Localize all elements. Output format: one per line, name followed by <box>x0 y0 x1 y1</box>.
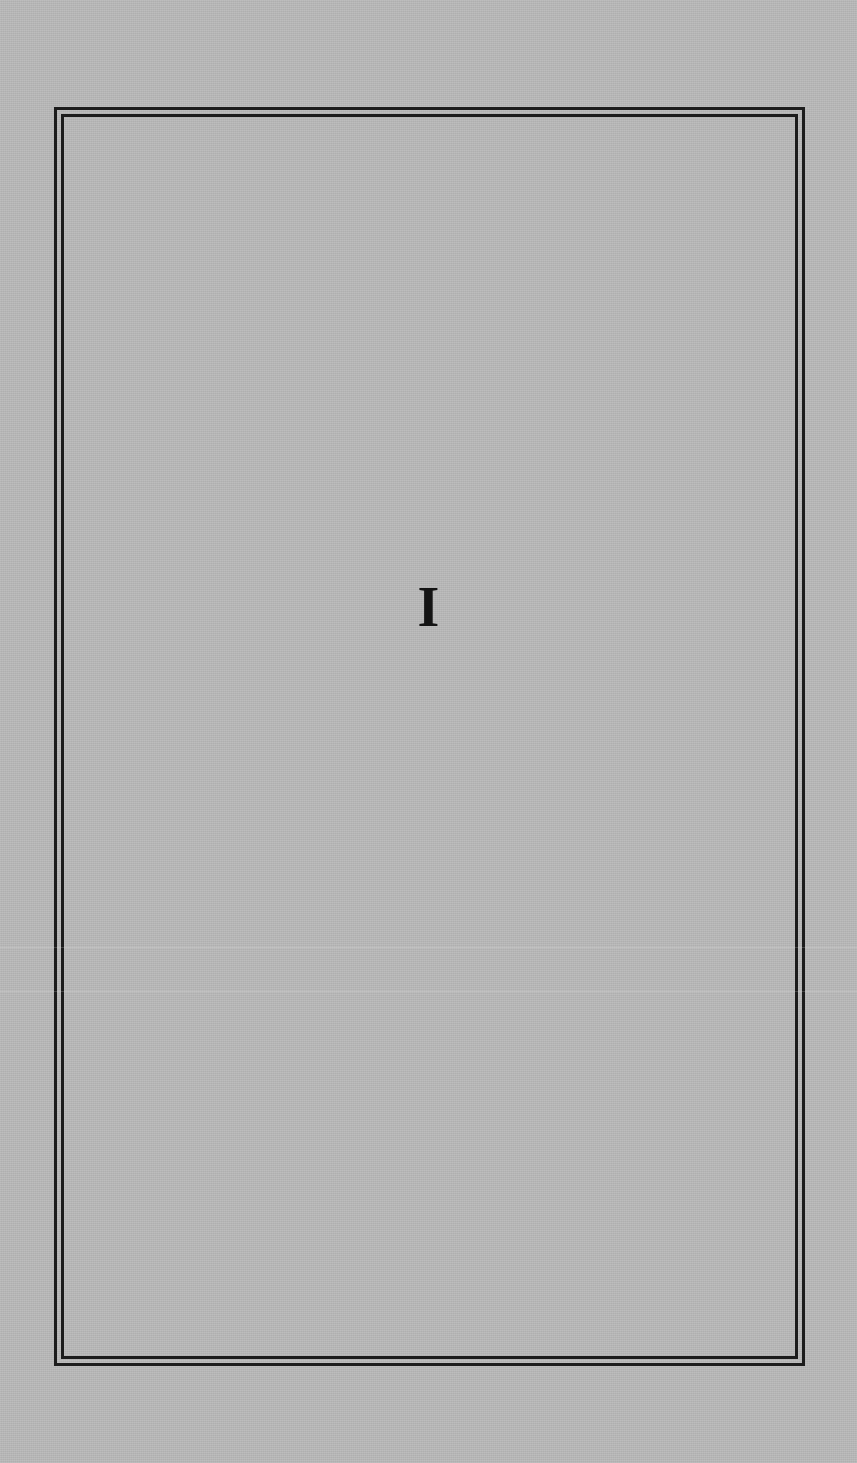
scan-artifact-line <box>0 947 857 948</box>
scan-artifact-line <box>0 991 857 992</box>
roman-numeral-heading: I <box>0 572 857 642</box>
inner-frame-border <box>61 114 798 1359</box>
